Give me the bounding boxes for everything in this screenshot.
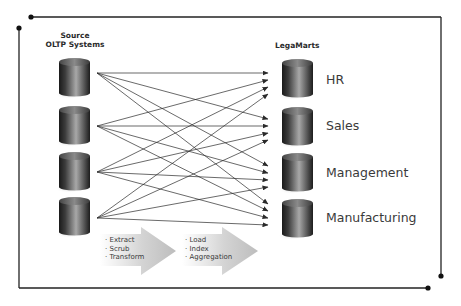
source-title: Source OLTP Systems — [40, 31, 110, 49]
target-title: LegaMarts — [275, 41, 325, 50]
stage2-list: Load Index Aggregation — [185, 236, 232, 262]
source-db-3-icon — [55, 152, 90, 193]
frame-dot-right — [438, 273, 443, 278]
stage2-item-index: Index — [185, 245, 232, 254]
mart-label-manufacturing: Manufacturing — [326, 211, 417, 225]
mart-manufacturing-db-icon — [278, 199, 313, 240]
frame-dot-bottom — [425, 285, 430, 290]
stage1-item-scrub: Scrub — [105, 245, 144, 254]
mart-label-management: Management — [326, 166, 408, 180]
mart-label-hr: HR — [326, 73, 344, 87]
stage1-list: Extract Scrub Transform — [105, 236, 144, 262]
source-databases — [55, 58, 90, 238]
source-title-line1: Source — [40, 31, 110, 40]
target-databases — [278, 59, 313, 240]
mart-sales-db-icon — [278, 107, 313, 148]
mart-hr-db-icon — [278, 59, 313, 100]
frame-dot-top — [28, 14, 33, 19]
stage1-item-transform: Transform — [105, 253, 144, 262]
source-title-line2: OLTP Systems — [40, 40, 110, 49]
stage2-item-load: Load — [185, 236, 232, 245]
stage2-item-aggregation: Aggregation — [185, 253, 232, 262]
frame-dot-left — [16, 25, 21, 30]
stage1-item-extract: Extract — [105, 236, 144, 245]
mart-management-db-icon — [278, 153, 313, 194]
mart-label-sales: Sales — [326, 119, 359, 133]
source-db-1-icon — [55, 58, 90, 99]
connector-lines — [97, 73, 268, 225]
source-db-4-icon — [55, 197, 90, 238]
source-db-2-icon — [55, 106, 90, 147]
